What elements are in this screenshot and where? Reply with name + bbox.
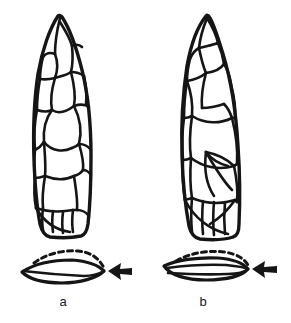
specimen-a-flake-28 <box>45 176 74 179</box>
specimen-b-flake-36 <box>191 198 192 232</box>
cross-section-b <box>164 251 249 280</box>
specimen-b-flake-35 <box>206 152 232 190</box>
specimen-b-flake-9 <box>206 64 224 73</box>
specimen-b-flake-39 <box>224 202 225 234</box>
specimen-a-flake-17 <box>84 76 86 104</box>
specimen-b-flake-18 <box>224 104 232 118</box>
specimen-a-flake-6 <box>71 46 73 72</box>
specimen-b-point <box>182 15 240 239</box>
specimen-b-flake-6 <box>199 48 206 73</box>
figure-drawing <box>0 0 291 323</box>
specimen-a-flake-25 <box>34 150 35 178</box>
specimen-a-flake-19 <box>74 106 80 144</box>
specimen-a-flake-5 <box>55 54 57 78</box>
specimen-a-flake-41 <box>72 210 73 232</box>
specimen-a-flake-4 <box>43 53 55 57</box>
specimen-b-flake-3 <box>199 43 218 48</box>
specimen-a-flake-29 <box>74 170 83 176</box>
specimen-a-flake-30 <box>79 144 83 170</box>
specimen-b-caption: b <box>188 294 218 309</box>
cross-section-b-chord-lower <box>168 269 248 274</box>
specimen-b-flake-15 <box>192 116 232 122</box>
specimen-b-flake-16 <box>231 84 235 118</box>
cross-section-a <box>22 251 104 283</box>
specimen-a-flake-20 <box>34 110 37 150</box>
lithic-figure: a b <box>0 0 291 323</box>
specimen-b-flake-13 <box>187 81 192 116</box>
specimen-a-flake-39 <box>52 211 53 232</box>
specimen-a-point <box>34 15 91 237</box>
specimen-a-flake-18 <box>44 110 52 142</box>
specimen-a-flake-1 <box>55 18 60 54</box>
specimen-a-flake-37 <box>77 210 89 216</box>
arrow-b-shape <box>252 261 277 278</box>
specimen-b-flake-21 <box>182 118 184 160</box>
specimen-a-caption: a <box>48 294 78 309</box>
specimen-a-flake-22 <box>44 142 72 150</box>
specimen-a-flake-8 <box>40 78 55 79</box>
arrow-a-shape <box>108 263 132 280</box>
arrow-left-icon-b <box>252 261 277 278</box>
cross-section-b-chord-upper <box>167 265 248 269</box>
arrow-left-icon-a <box>108 263 132 280</box>
specimen-a-flake-32 <box>43 176 45 208</box>
specimen-b-flake-11 <box>202 73 206 108</box>
specimen-b-flake-19 <box>202 104 224 108</box>
specimen-b-flake-32 <box>234 166 237 202</box>
specimen-a-flake-21 <box>35 142 44 150</box>
cross-section-a-chord <box>23 271 104 276</box>
specimen-a-flake-15 <box>52 106 74 112</box>
specimen-a-flake-26 <box>44 142 45 176</box>
specimen-a-flake-11 <box>51 78 55 110</box>
specimen-b-flake-28 <box>190 158 192 198</box>
specimen-b-flake-37 <box>202 201 203 234</box>
specimen-a-flake-34 <box>74 176 77 210</box>
specimen-a-flake-12 <box>71 72 75 106</box>
specimen-b-flake-20 <box>190 116 192 158</box>
